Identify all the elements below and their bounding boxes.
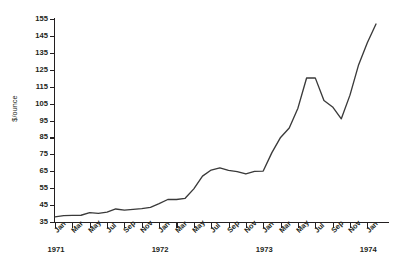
y-axis-title: $/ounce (10, 79, 19, 139)
x-year-label: 1974 (360, 246, 377, 254)
y-tick-mark (50, 19, 55, 20)
y-tick-label: 125 (24, 66, 48, 74)
y-tick-mark (50, 70, 55, 71)
x-year-label: 1971 (48, 246, 65, 254)
y-tick-label: 135 (24, 49, 48, 57)
x-year-label: 1972 (152, 246, 169, 254)
y-tick-mark (50, 87, 55, 88)
y-tick-mark (50, 53, 55, 54)
y-tick-label: 115 (24, 83, 48, 91)
y-tick-label: 85 (24, 133, 48, 141)
plot-svg (55, 19, 388, 222)
y-tick-mark (50, 188, 55, 189)
y-tick-mark (50, 171, 55, 172)
y-tick-label: 95 (24, 117, 48, 125)
price-series-line (55, 24, 376, 217)
y-tick-mark (50, 222, 55, 223)
y-tick-label: 55 (24, 184, 48, 192)
y-axis-tick-labels: 15514513512511510595857565554535 (22, 0, 48, 265)
y-tick-label: 105 (24, 100, 48, 108)
y-tick-label: 155 (24, 15, 48, 23)
y-tick-label: 145 (24, 32, 48, 40)
y-tick-label: 75 (24, 150, 48, 158)
y-tick-label: 35 (24, 218, 48, 226)
x-year-label: 1973 (256, 246, 273, 254)
y-tick-mark (50, 154, 55, 155)
y-tick-mark (50, 205, 55, 206)
y-tick-mark (50, 36, 55, 37)
plot-area (55, 19, 388, 222)
y-tick-label: 65 (24, 167, 48, 175)
y-tick-mark (50, 104, 55, 105)
y-tick-mark (50, 137, 55, 138)
y-tick-label: 45 (24, 201, 48, 209)
gold-price-line-chart: $/ounce 15514513512511510595857565554535… (0, 0, 400, 265)
y-tick-mark (50, 121, 55, 122)
